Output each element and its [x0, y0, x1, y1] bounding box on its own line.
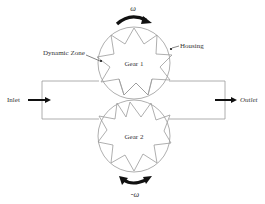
gear-1: Gear 1 — [97, 27, 172, 99]
curved-arrow-icon — [124, 180, 146, 183]
gear-1-label: Gear 1 — [125, 60, 144, 68]
housing-label: Housing — [180, 42, 204, 50]
dynamic-zone-callout: Dynamic Zone — [43, 49, 102, 62]
outlet: Outlet — [215, 96, 259, 104]
housing-callout: Housing — [170, 42, 204, 50]
inlet-label: Inlet — [7, 96, 20, 104]
rotation-arrow-bottom: -ω — [119, 176, 152, 199]
housing-dot — [170, 48, 172, 50]
omega-bottom-label: -ω — [131, 190, 140, 199]
omega-top-label: ω — [130, 4, 136, 13]
inlet: Inlet — [7, 96, 51, 104]
gear-2-label: Gear 2 — [125, 133, 144, 141]
housing-leader — [172, 46, 179, 48]
inlet-arrowhead-icon — [45, 97, 51, 103]
gear-pump-diagram: Gear 1 Gear 2 ω -ω Inlet Outlet Dynamic … — [0, 0, 265, 204]
gear-2: Gear 2 — [98, 100, 171, 172]
dynamic-zone-dot — [100, 60, 102, 62]
dynamic-zone-label: Dynamic Zone — [43, 49, 85, 57]
arrowhead-icon — [143, 176, 152, 184]
outlet-label: Outlet — [240, 96, 259, 104]
rotation-arrow-top: ω — [117, 4, 152, 24]
outlet-arrowhead-icon — [231, 97, 237, 103]
